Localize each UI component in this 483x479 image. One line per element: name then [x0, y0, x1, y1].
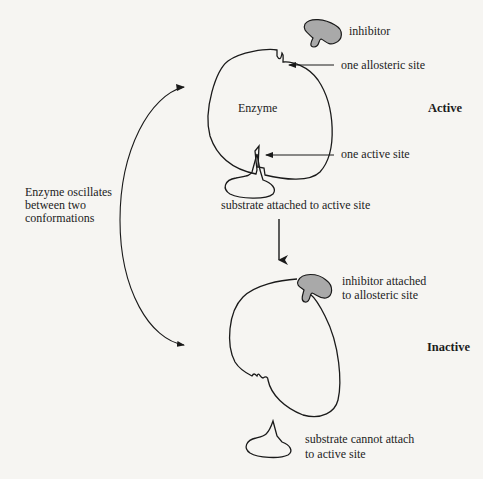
label-oscillation-3: conformations	[25, 212, 94, 225]
enzyme-inactive-outline	[230, 279, 340, 417]
label-inhibitor: inhibitor	[349, 25, 390, 38]
label-inactive-state: Inactive	[427, 341, 470, 354]
label-allosteric-site: one allosteric site	[341, 59, 425, 72]
oscillation-arrowhead-top	[176, 84, 185, 91]
label-inhibitor-attached-1: inhibitor attached	[342, 275, 426, 288]
label-enzyme: Enzyme	[238, 102, 277, 115]
label-active-state: Active	[428, 102, 462, 115]
label-substrate-cannot-1: substrate cannot attach	[305, 433, 414, 446]
label-active-site: one active site	[341, 148, 410, 161]
oscillation-arrow	[120, 87, 184, 345]
label-inhibitor-attached-2: to allosteric site	[342, 289, 418, 302]
inhibitor-shape	[304, 20, 341, 47]
label-substrate-cannot-2: to active site	[305, 448, 366, 461]
substrate-free-shape	[246, 421, 291, 457]
label-substrate-attached: substrate attached to active site	[221, 199, 370, 212]
